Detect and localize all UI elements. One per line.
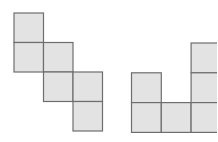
square-cell	[14, 43, 44, 73]
square-cell	[14, 13, 44, 43]
square-cell	[73, 72, 103, 102]
square-cell	[191, 43, 217, 73]
square-cell	[44, 72, 74, 102]
square-cell	[191, 103, 217, 133]
square-cell	[161, 103, 191, 133]
square-cell	[132, 103, 162, 133]
square-cell	[73, 102, 103, 132]
square-cell	[132, 73, 162, 103]
diagram-canvas	[0, 0, 217, 142]
square-cell	[44, 43, 74, 73]
staircase-net	[14, 13, 103, 131]
u-shape-net	[132, 43, 218, 132]
square-cell	[191, 73, 217, 103]
